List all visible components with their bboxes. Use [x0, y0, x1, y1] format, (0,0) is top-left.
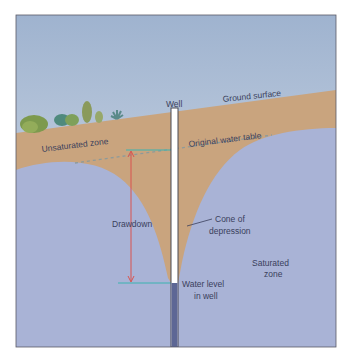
- bush-icon: [22, 121, 38, 133]
- label-cone-of-depression-2: depression: [209, 226, 251, 236]
- label-water-level-1: Water level: [182, 279, 224, 289]
- bush-icon: [65, 114, 79, 126]
- tree-icon: [82, 101, 92, 123]
- well-drawdown-diagram: Well Ground surface Unsaturated zone Ori…: [0, 0, 349, 361]
- label-saturated-zone-1: Saturated: [252, 258, 289, 268]
- label-cone-of-depression-1: Cone of: [215, 214, 245, 224]
- label-saturated-zone-2: zone: [264, 269, 283, 279]
- label-well: Well: [166, 99, 182, 109]
- label-water-level-2: in well: [194, 291, 218, 301]
- well-water: [172, 283, 178, 347]
- label-drawdown: Drawdown: [112, 219, 152, 229]
- tree-icon: [95, 111, 103, 123]
